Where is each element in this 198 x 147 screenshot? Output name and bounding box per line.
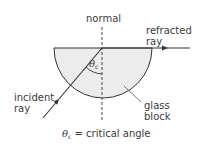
refracted-label-line2: ray (146, 36, 192, 47)
caption: θc = critical angle (62, 128, 151, 140)
glass-block (54, 48, 152, 98)
incident-label-line2: ray (14, 103, 54, 114)
glass-label-line2: block (144, 111, 171, 122)
refracted-label-line1: refracted (146, 25, 192, 36)
theta-subscript: c (95, 63, 98, 70)
caption-text: = critical angle (71, 128, 150, 139)
glass-label-line1: glass (144, 100, 171, 111)
incident-label-line1: incident (14, 92, 54, 103)
normal-label: normal (86, 13, 121, 24)
refracted-ray-label: refracted ray (146, 25, 192, 47)
angle-label: θc (89, 58, 98, 72)
incident-ray-label: incident ray (14, 92, 54, 114)
glass-block-label: glass block (144, 100, 171, 122)
